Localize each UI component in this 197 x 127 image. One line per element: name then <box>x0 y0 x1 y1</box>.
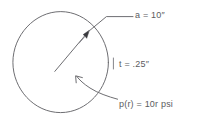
figure-canvas: a = 10″ t = .25″ p(r) = 10r psi <box>0 0 197 127</box>
pressure-leader-curve <box>77 76 118 99</box>
radius-annotation-label: a = 10″ <box>135 11 165 20</box>
radius-arrow-tail <box>79 37 84 43</box>
thickness-annotation-label: t = .25″ <box>119 60 149 69</box>
radius-leader-elbow <box>89 17 133 32</box>
pressure-annotation-label: p(r) = 10r psi <box>119 100 173 109</box>
